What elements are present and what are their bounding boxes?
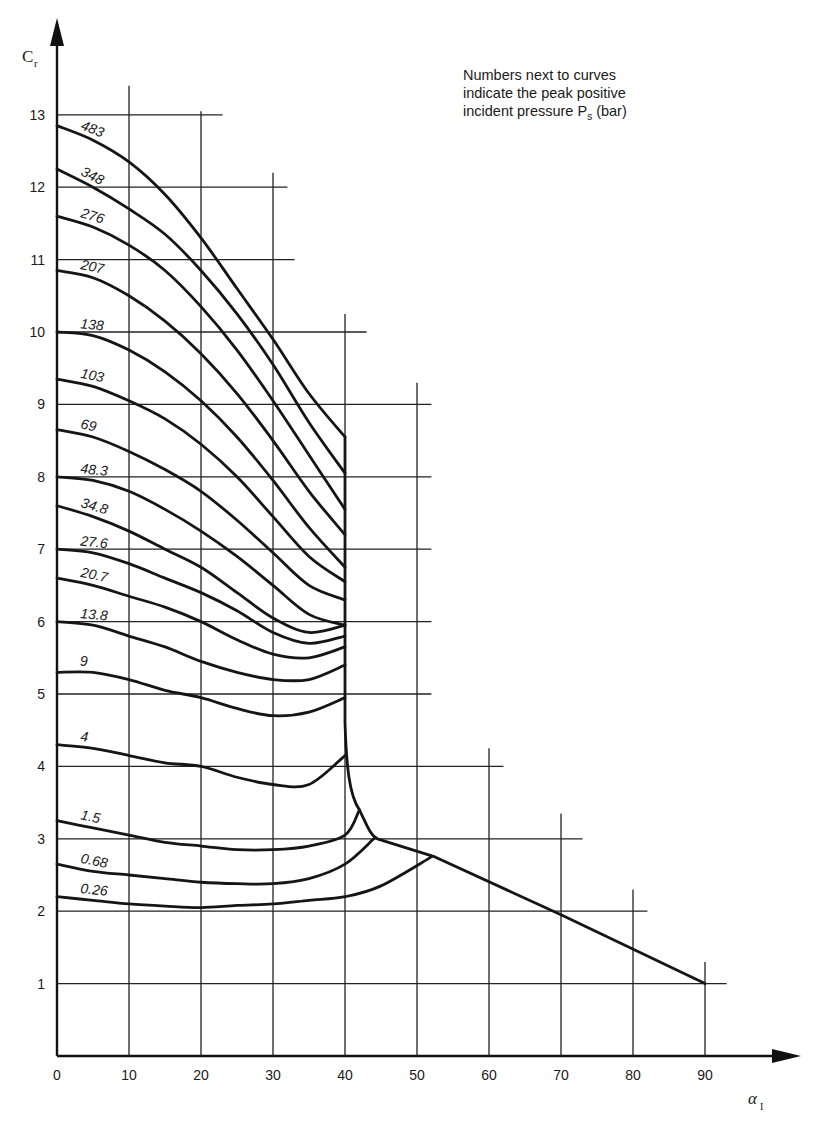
curve-label: 13.8: [80, 605, 109, 624]
y-tick-label: 1: [37, 976, 45, 992]
svg-text:α: α: [748, 1089, 758, 1108]
x-tick-label: 20: [193, 1067, 209, 1083]
y-tick-label: 4: [37, 758, 45, 774]
curve-label: 0.68: [79, 850, 109, 871]
curve-label: 27.6: [79, 532, 109, 551]
y-tick-label: 10: [29, 324, 45, 340]
y-tick-label: 12: [29, 179, 45, 195]
curve-label: 4: [80, 728, 90, 745]
y-tick-label: 3: [37, 831, 45, 847]
y-tick-label: 11: [30, 252, 45, 268]
envelope-limit-line: [345, 437, 705, 984]
y-tick-label: 7: [37, 541, 45, 557]
pressure-curves: [57, 126, 705, 984]
chart-plot: 010203040506070809012345678910111213 483…: [0, 0, 821, 1127]
svg-text:r: r: [34, 57, 38, 69]
annotation-line-2: indicate the peak positive: [463, 84, 743, 102]
x-axis-arrow-icon: [772, 1049, 801, 1063]
x-tick-label: 70: [553, 1067, 569, 1083]
x-tick-label: 0: [53, 1067, 61, 1083]
y-axis-title: C r: [22, 47, 38, 69]
curve-label: 348: [79, 163, 107, 188]
x-tick-label: 30: [265, 1067, 281, 1083]
y-tick-label: 8: [37, 469, 45, 485]
y-tick-label: 9: [37, 396, 45, 412]
curve-label: 1.5: [79, 807, 101, 827]
y-tick-label: 5: [37, 686, 45, 702]
curve-ps-0-26: [57, 857, 431, 908]
x-axis-title: α I: [748, 1089, 763, 1112]
x-tick-label: 10: [121, 1067, 137, 1083]
curve-label: 138: [80, 315, 105, 333]
x-tick-label: 50: [409, 1067, 425, 1083]
curve-label: 9: [80, 653, 88, 669]
grid-lines: [57, 86, 727, 1056]
curve-ps-1-5: [57, 810, 359, 850]
curve-label: 69: [79, 416, 98, 435]
curve-label: 48.3: [80, 460, 109, 479]
svg-text:I: I: [760, 1101, 763, 1112]
y-tick-label: 2: [37, 903, 45, 919]
curve-label: 103: [79, 365, 105, 385]
svg-text:C: C: [22, 47, 33, 66]
annotation-line-1: Numbers next to curves: [463, 66, 743, 84]
y-axis-arrow-icon: [50, 18, 64, 46]
y-tick-label: 13: [29, 107, 45, 123]
curve-labels: 4833482762071381036948.334.827.620.713.8…: [78, 117, 110, 899]
curve-annotation: Numbers next to curves indicate the peak…: [463, 66, 743, 126]
x-tick-label: 90: [697, 1067, 713, 1083]
x-tick-label: 80: [625, 1067, 641, 1083]
x-tick-label: 40: [337, 1067, 353, 1083]
y-tick-label: 6: [37, 614, 45, 630]
tick-labels: 010203040506070809012345678910111213: [29, 107, 713, 1083]
curve-label: 0.26: [80, 880, 109, 899]
annotation-line-3: incident pressure Ps (bar): [463, 102, 743, 126]
x-tick-label: 60: [481, 1067, 497, 1083]
